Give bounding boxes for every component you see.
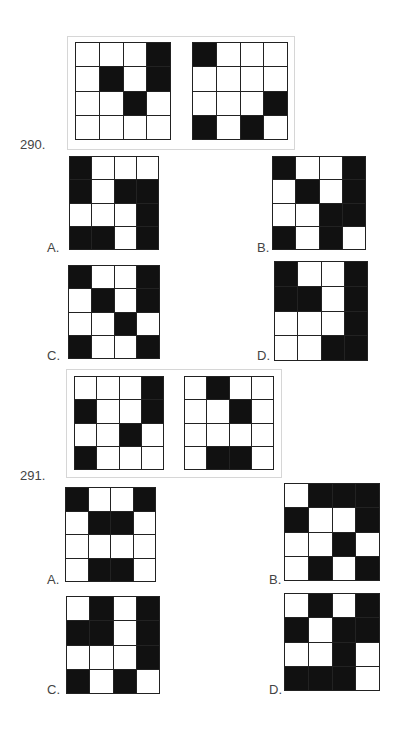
grid-cell-r4c2 — [207, 447, 228, 469]
grid-cell-r1c3 — [111, 488, 133, 511]
grid-cell-r4c3 — [114, 670, 136, 693]
q290-option-b-grid[interactable] — [272, 156, 366, 250]
grid-cell-r2c1 — [75, 400, 96, 422]
grid-cell-r2c2 — [89, 512, 111, 535]
grid-cell-r3c1 — [76, 92, 99, 115]
grid-cell-r2c2 — [309, 618, 332, 641]
grid-cell-r2c3 — [120, 400, 141, 422]
grid-cell-r1c1 — [69, 266, 91, 288]
grid-cell-r4c3 — [115, 336, 137, 358]
grid-cell-r1c2 — [92, 157, 113, 179]
grid-cell-r4c3 — [124, 116, 147, 139]
grid-cell-r1c4 — [356, 594, 379, 617]
grid-cell-r3c2 — [90, 646, 112, 669]
q291-option-a-grid[interactable] — [65, 487, 156, 582]
grid-cell-r4c2 — [309, 557, 332, 580]
grid-cell-r1c4 — [137, 597, 159, 620]
grid-cell-r3c4 — [137, 313, 159, 335]
grid-cell-r1c3 — [322, 262, 344, 286]
grid-cell-r2c2 — [217, 67, 240, 90]
grid-cell-r3c4 — [356, 643, 379, 666]
grid-cell-r1c4 — [252, 377, 273, 399]
grid-cell-r4c3 — [320, 227, 342, 249]
grid-cell-r4c3 — [111, 559, 133, 582]
grid-cell-r4c1 — [275, 336, 297, 360]
grid-cell-r3c2 — [309, 643, 332, 666]
grid-cell-r2c2 — [90, 621, 112, 644]
grid-cell-r4c4 — [264, 116, 287, 139]
grid-cell-r3c1 — [193, 92, 216, 115]
q291-number: 291. — [20, 468, 45, 483]
q291-option-d-label: D. — [269, 682, 282, 697]
grid-cell-r2c1 — [285, 618, 308, 641]
grid-cell-r3c1 — [185, 424, 206, 446]
grid-cell-r1c2 — [217, 43, 240, 66]
grid-cell-r4c3 — [333, 667, 356, 690]
grid-cell-r2c4 — [345, 287, 367, 311]
q291-grid-1 — [74, 376, 164, 470]
grid-cell-r2c2 — [92, 180, 113, 202]
grid-cell-r1c3 — [120, 377, 141, 399]
q290-number: 290. — [20, 137, 45, 152]
grid-cell-r1c2 — [97, 377, 118, 399]
grid-cell-r2c2 — [92, 289, 114, 311]
q290-option-c-label: C. — [47, 348, 60, 363]
grid-cell-r3c3 — [115, 204, 136, 226]
grid-cell-r1c4 — [356, 484, 379, 507]
q290-grid-2 — [192, 42, 288, 140]
grid-cell-r3c2 — [92, 204, 113, 226]
q290-option-a-label: A. — [47, 240, 59, 255]
grid-cell-r2c1 — [69, 289, 91, 311]
grid-cell-r2c1 — [273, 180, 295, 202]
grid-cell-r3c2 — [100, 92, 123, 115]
grid-cell-r1c1 — [70, 157, 91, 179]
grid-cell-r3c3 — [322, 312, 344, 336]
grid-cell-r2c3 — [111, 512, 133, 535]
q291-option-a-label: A. — [47, 572, 59, 587]
grid-cell-r3c4 — [345, 312, 367, 336]
grid-cell-r2c1 — [67, 621, 89, 644]
grid-cell-r1c1 — [285, 484, 308, 507]
grid-cell-r3c1 — [66, 535, 88, 558]
grid-cell-r1c4 — [142, 377, 163, 399]
grid-cell-r2c1 — [275, 287, 297, 311]
grid-cell-r3c4 — [134, 535, 156, 558]
q290-option-a-grid[interactable] — [69, 156, 159, 250]
grid-cell-r1c2 — [100, 43, 123, 66]
grid-cell-r1c1 — [193, 43, 216, 66]
grid-cell-r2c3 — [320, 180, 342, 202]
q291-option-c-grid[interactable] — [66, 596, 160, 694]
grid-cell-r1c1 — [285, 594, 308, 617]
grid-cell-r4c2 — [298, 336, 320, 360]
q291-option-b-grid[interactable] — [284, 483, 380, 581]
grid-cell-r4c2 — [92, 336, 114, 358]
grid-cell-r1c4 — [147, 43, 170, 66]
grid-cell-r1c2 — [207, 377, 228, 399]
grid-cell-r4c4 — [147, 116, 170, 139]
grid-cell-r2c3 — [230, 400, 251, 422]
grid-cell-r3c4 — [137, 646, 159, 669]
grid-cell-r4c2 — [90, 670, 112, 693]
grid-cell-r4c1 — [285, 667, 308, 690]
grid-cell-r3c1 — [75, 424, 96, 446]
grid-cell-r4c4 — [137, 227, 158, 249]
grid-cell-r3c2 — [296, 204, 318, 226]
grid-cell-r4c1 — [70, 227, 91, 249]
grid-cell-r4c3 — [120, 447, 141, 469]
grid-cell-r3c3 — [124, 92, 147, 115]
grid-cell-r2c2 — [97, 400, 118, 422]
grid-cell-r2c2 — [207, 400, 228, 422]
grid-cell-r2c2 — [298, 287, 320, 311]
grid-cell-r1c3 — [333, 594, 356, 617]
grid-cell-r4c2 — [217, 116, 240, 139]
q291-option-b-label: B. — [269, 572, 281, 587]
grid-cell-r4c4 — [134, 559, 156, 582]
q290-option-d-grid[interactable] — [274, 261, 368, 361]
grid-cell-r1c2 — [298, 262, 320, 286]
grid-cell-r3c4 — [264, 92, 287, 115]
q290-option-c-grid[interactable] — [68, 265, 160, 359]
q291-option-d-grid[interactable] — [284, 593, 380, 691]
q290-option-b-label: B. — [257, 240, 269, 255]
grid-cell-r4c2 — [100, 116, 123, 139]
grid-cell-r4c1 — [185, 447, 206, 469]
